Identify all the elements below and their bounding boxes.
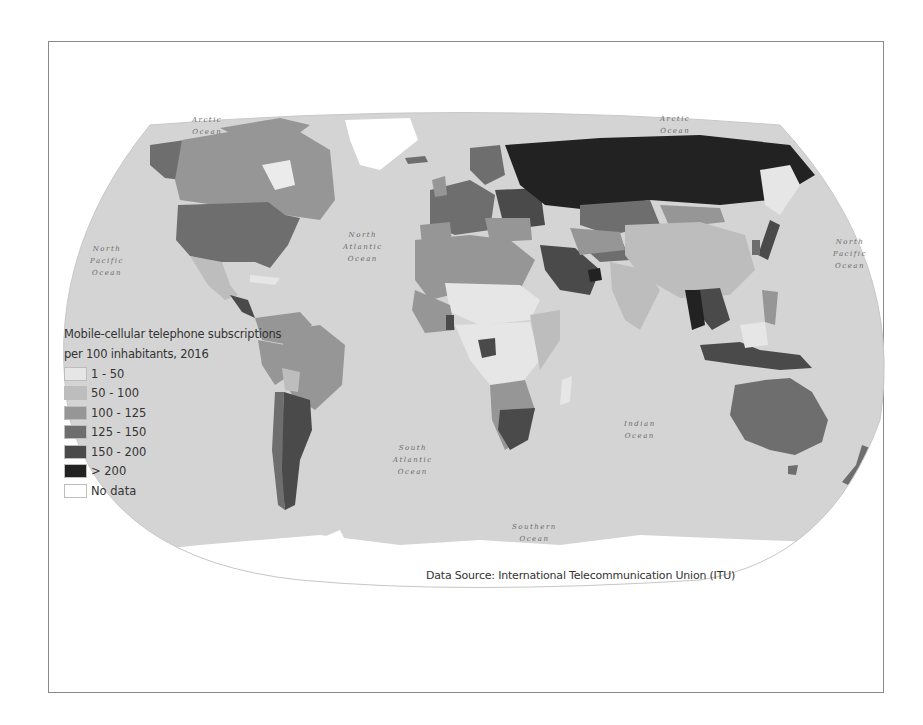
- ocean-label-southern: Southern Ocean: [512, 521, 557, 545]
- legend-item: 50 - 100: [64, 384, 281, 404]
- map-legend: Mobile-cellular telephone subscriptions …: [64, 324, 281, 501]
- ocean-label-north-pacific-west: North Pacific Ocean: [90, 243, 124, 279]
- legend-item: 100 - 125: [64, 403, 281, 423]
- legend-item: > 200: [64, 462, 281, 482]
- legend-swatch: [64, 484, 87, 498]
- ocean-label-north-pacific-east: North Pacific Ocean: [833, 236, 867, 272]
- legend-label: 150 - 200: [91, 445, 146, 459]
- legend-item: 150 - 200: [64, 442, 281, 462]
- data-source-credit: Data Source: International Telecommunica…: [426, 569, 735, 582]
- legend-swatch: [64, 406, 87, 420]
- legend-label: > 200: [91, 464, 126, 478]
- legend-swatch: [64, 367, 87, 381]
- iberia: [420, 222, 452, 245]
- legend-swatch: [64, 425, 87, 439]
- legend-label: 1 - 50: [91, 367, 124, 381]
- legend-swatch: [64, 386, 87, 400]
- legend-item: 1 - 50: [64, 364, 281, 384]
- legend-title-line1: Mobile-cellular telephone subscriptions: [64, 324, 281, 344]
- legend-label: No data: [91, 484, 136, 498]
- ocean-label-north-atlantic: North Atlantic Ocean: [343, 229, 383, 265]
- ocean-label-arctic-west: Arctic Ocean: [192, 114, 222, 138]
- legend-item: 125 - 150: [64, 423, 281, 443]
- legend-swatch: [64, 464, 87, 478]
- borneo: [740, 322, 768, 348]
- legend-label: 100 - 125: [91, 406, 146, 420]
- legend-title-line2: per 100 inhabitants, 2016: [64, 344, 281, 364]
- legend-item: No data: [64, 481, 281, 501]
- uae: [588, 268, 602, 282]
- country-ghana: [446, 315, 454, 330]
- ocean-label-arctic-east: Arctic Ocean: [660, 113, 690, 137]
- country-korea: [752, 240, 760, 255]
- legend-label: 50 - 100: [91, 386, 139, 400]
- ocean-label-indian: Indian Ocean: [624, 418, 656, 442]
- legend-label: 125 - 150: [91, 425, 146, 439]
- ocean-label-south-atlantic: South Atlantic Ocean: [393, 442, 433, 478]
- legend-swatch: [64, 445, 87, 459]
- balkans: [485, 218, 532, 242]
